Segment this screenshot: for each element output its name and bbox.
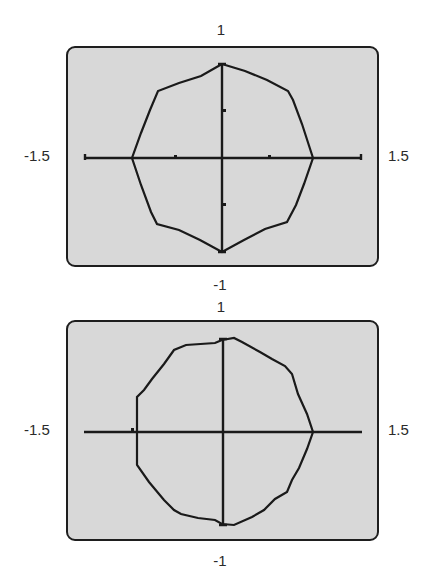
bottom-ymax-label: 1: [217, 299, 225, 315]
top-graph-screen: [66, 46, 379, 267]
bottom-xmax-label: 1.5: [388, 422, 409, 438]
bottom-ymin-label: -1: [213, 553, 226, 569]
top-xmin-label: -1.5: [24, 148, 50, 164]
top-ymin-label: -1: [213, 277, 226, 293]
top-ymax-label: 1: [217, 22, 225, 38]
bottom-tick-mark: [131, 428, 134, 431]
bottom-xmin-label: -1.5: [24, 422, 50, 438]
top-xmax-label: 1.5: [388, 148, 409, 164]
bottom-graph-screen: [66, 320, 379, 541]
top-plot: [68, 48, 379, 267]
bottom-plot: [68, 322, 379, 541]
